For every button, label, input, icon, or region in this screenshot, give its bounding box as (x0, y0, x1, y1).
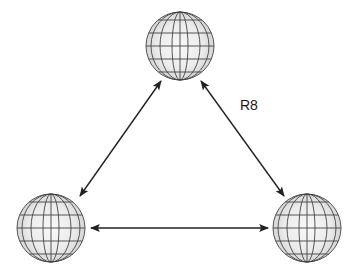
globe-icon-bottom-left (17, 194, 85, 262)
globe-icon-top (146, 12, 214, 80)
globe-icon-bottom-right (273, 194, 341, 262)
network-diagram (0, 0, 358, 274)
arrow-top-bottom-left (80, 81, 161, 196)
edge-label-r8: R8 (240, 97, 258, 113)
